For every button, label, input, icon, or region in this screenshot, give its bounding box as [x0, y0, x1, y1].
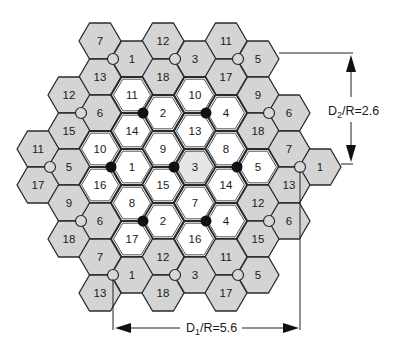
co-channel-site-circle-icon — [76, 108, 87, 119]
cell-number-label: 12 — [157, 251, 170, 263]
cell-number-label: 1 — [129, 161, 135, 173]
co-channel-site-circle-icon — [45, 162, 56, 173]
cell-number-label: 7 — [97, 251, 103, 263]
co-channel-site-circle-icon — [233, 270, 244, 281]
cell-number-label: 9 — [66, 197, 72, 209]
cell-number-label: 12 — [157, 35, 170, 47]
cell-number-label: 11 — [32, 143, 44, 155]
cell-number-label: 15 — [63, 125, 76, 137]
cell-number-label: 10 — [189, 89, 202, 101]
cell-number-label: 1 — [129, 53, 135, 65]
cell-number-label: 6 — [286, 107, 292, 119]
cell-number-label: 7 — [192, 197, 198, 209]
cell-number-label: 5 — [66, 161, 72, 173]
co-channel-site-circle-icon — [170, 270, 181, 281]
cell-number-label: 17 — [32, 179, 45, 191]
cell-number-label: 14 — [220, 179, 233, 191]
cell-number-label: 17 — [126, 233, 139, 245]
d2-arrowhead-down-icon — [346, 145, 356, 162]
co-channel-site-circle-icon — [170, 54, 181, 65]
d2-label: D2/R=2.6 — [328, 104, 379, 120]
cell-number-label: 18 — [252, 125, 265, 137]
cell-number-label: 17 — [220, 71, 233, 83]
cell-number-label: 2 — [160, 215, 166, 227]
cell-number-label: 4 — [223, 215, 230, 227]
cell-number-label: 16 — [189, 233, 202, 245]
co-channel-site-circle-icon — [264, 108, 275, 119]
co-channel-site-circle-icon — [108, 270, 119, 281]
cell-number-label: 4 — [223, 107, 230, 119]
co-channel-site-circle-icon — [108, 54, 119, 65]
co-channel-site-circle-icon — [264, 216, 275, 227]
cell-number-label: 12 — [252, 197, 265, 209]
cell-number-label: 13 — [94, 71, 107, 83]
cell-number-label: 11 — [220, 251, 232, 263]
cell-number-label: 9 — [255, 89, 261, 101]
cell-number-label: 18 — [63, 233, 76, 245]
cell-number-label: 6 — [286, 215, 292, 227]
cell-number-label: 13 — [189, 125, 202, 137]
cell-number-label: 16 — [94, 179, 107, 191]
cell-number-label: 7 — [97, 35, 103, 47]
cell-number-label: 14 — [126, 125, 139, 137]
interferer-dot-icon — [169, 162, 180, 173]
d1-label: D1/R=5.6 — [186, 321, 237, 337]
interferer-dot-icon — [138, 216, 149, 227]
cell-number-label: 18 — [157, 287, 170, 299]
d1-arrowhead-left-icon — [115, 323, 131, 333]
cell-number-label: 1 — [129, 269, 135, 281]
d1-arrowhead-right-icon — [283, 323, 299, 333]
cell-number-label: 3 — [192, 269, 198, 281]
cell-number-label: 3 — [192, 53, 198, 65]
cell-number-label: 13 — [283, 179, 296, 191]
cell-reuse-diagram: 7121113513181712111096246151413181110987… — [0, 0, 393, 355]
cell-number-label: 18 — [157, 71, 170, 83]
cell-number-label: 15 — [157, 179, 170, 191]
cell-number-label: 11 — [126, 89, 138, 101]
interferer-dot-icon — [138, 108, 149, 119]
cell-number-label: 8 — [223, 143, 229, 155]
cell-number-label: 13 — [94, 287, 107, 299]
interferer-dot-icon — [201, 108, 212, 119]
cell-number-label: 6 — [97, 215, 103, 227]
cell-number-label: 5 — [255, 161, 261, 173]
cell-number-label: 9 — [160, 143, 166, 155]
co-channel-site-circle-icon — [295, 162, 306, 173]
co-channel-site-circle-icon — [233, 54, 244, 65]
d2-arrowhead-up-icon — [346, 55, 356, 72]
interferer-dot-icon — [201, 216, 212, 227]
cell-number-label: 10 — [94, 143, 107, 155]
cell-number-label: 1 — [317, 161, 323, 173]
cell-number-label: 3 — [192, 161, 198, 173]
cell-number-label: 17 — [220, 287, 233, 299]
cell-number-label: 2 — [160, 107, 166, 119]
co-channel-site-circle-icon — [76, 216, 87, 227]
cell-number-label: 7 — [286, 143, 292, 155]
cell-number-label: 5 — [255, 269, 261, 281]
cell-number-label: 5 — [255, 53, 261, 65]
interferer-dot-icon — [232, 162, 243, 173]
cell-number-label: 6 — [97, 107, 103, 119]
cell-number-label: 11 — [220, 35, 232, 47]
cell-number-label: 8 — [129, 197, 135, 209]
interferer-dot-icon — [106, 162, 117, 173]
cell-number-label: 12 — [63, 89, 76, 101]
cell-number-label: 15 — [252, 233, 265, 245]
